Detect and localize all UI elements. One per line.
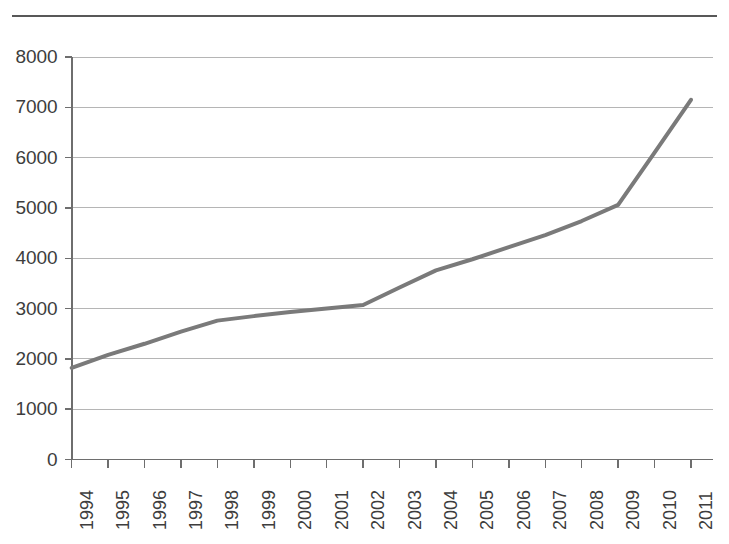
x-axis-label-2006: 2006 xyxy=(515,489,533,529)
y-tick-marks-group xyxy=(65,57,72,460)
x-tick-marks-group xyxy=(72,460,691,468)
x-axis-label-2004: 2004 xyxy=(442,489,460,529)
y-axis-label-5000: 5000 xyxy=(0,198,58,217)
y-axis-label-0: 0 xyxy=(0,450,58,469)
data-series-group xyxy=(72,100,691,368)
data-line-series xyxy=(72,100,691,368)
gridlines-group xyxy=(72,57,713,409)
line-chart: 800070006000500040003000200010000 199419… xyxy=(0,0,729,544)
x-axis-label-1995: 1995 xyxy=(114,489,132,529)
chart-plot-area xyxy=(0,0,729,544)
y-axis-label-2000: 2000 xyxy=(0,349,58,368)
x-axis-label-2010: 2010 xyxy=(661,489,679,529)
x-axis-label-1999: 1999 xyxy=(260,489,278,529)
x-axis-label-2000: 2000 xyxy=(296,489,314,529)
x-axis-label-1996: 1996 xyxy=(151,489,169,529)
x-axis-label-2002: 2002 xyxy=(369,489,387,529)
x-axis-label-1998: 1998 xyxy=(223,489,241,529)
y-axis-label-6000: 6000 xyxy=(0,148,58,167)
x-axis-label-2008: 2008 xyxy=(588,489,606,529)
x-axis-label-2005: 2005 xyxy=(478,489,496,529)
x-axis-label-2007: 2007 xyxy=(551,489,569,529)
x-axis-label-2003: 2003 xyxy=(406,489,424,529)
x-axis-label-2009: 2009 xyxy=(624,489,642,529)
y-axis-label-4000: 4000 xyxy=(0,248,58,267)
x-axis-label-2011: 2011 xyxy=(697,491,715,530)
x-axis-label-1997: 1997 xyxy=(187,489,205,529)
x-axis-label-2001: 2001 xyxy=(333,489,351,529)
y-axis-label-3000: 3000 xyxy=(0,299,58,318)
y-axis-label-7000: 7000 xyxy=(0,97,58,116)
x-axis-label-1994: 1994 xyxy=(78,489,96,529)
y-axis-label-8000: 8000 xyxy=(0,47,58,66)
y-axis-label-1000: 1000 xyxy=(0,399,58,418)
